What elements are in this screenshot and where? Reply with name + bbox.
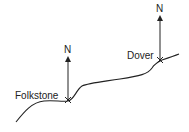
folkstone-label: Folkstone: [15, 91, 58, 101]
dover-north-label: N: [156, 4, 163, 14]
coastline: [16, 54, 179, 122]
folkstone-north-label: N: [64, 45, 71, 55]
dover-label: Dover: [127, 51, 154, 61]
map-diagram: [0, 0, 189, 132]
